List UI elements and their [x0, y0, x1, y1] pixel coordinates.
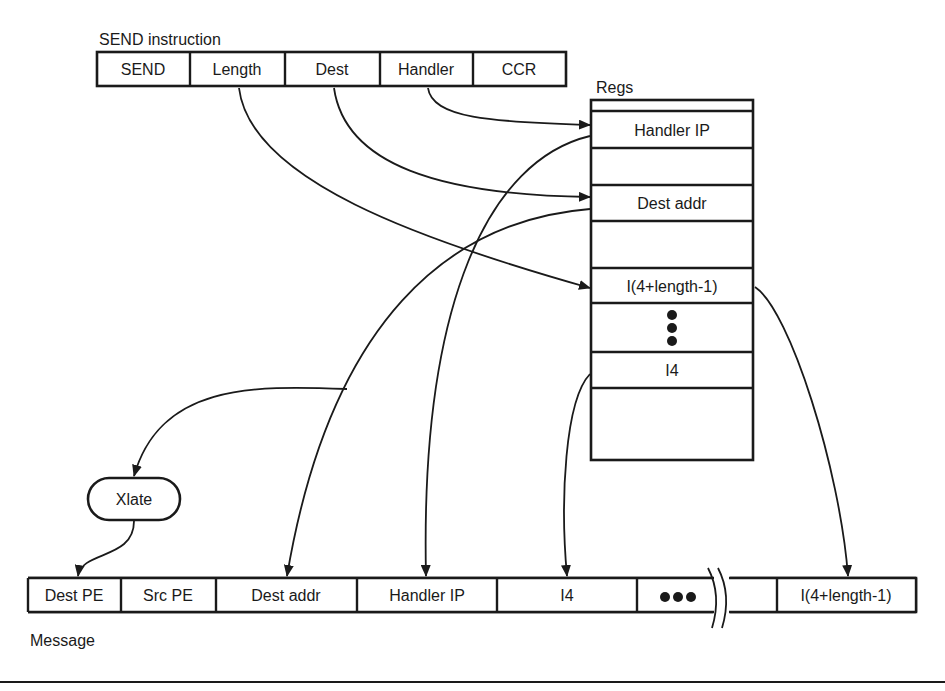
send-field-dest: Dest — [316, 61, 349, 78]
msg-field-dest-pe: Dest PE — [45, 587, 104, 604]
arrow-reg-last-to-msg — [755, 287, 848, 576]
send-message-diagram: SEND instruction SEND Length Dest Handle… — [0, 0, 945, 691]
xlate-label: Xlate — [116, 491, 153, 508]
regs-title: Regs — [596, 79, 633, 96]
send-field-opcode: SEND — [121, 61, 165, 78]
arrow-reg-dest-to-msg — [287, 209, 590, 576]
vertical-ellipsis-icon — [667, 310, 677, 346]
arrow-length-to-reg — [239, 88, 590, 288]
reg-dest-addr: Dest addr — [637, 195, 707, 212]
msg-field-dest-addr: Dest addr — [251, 587, 321, 604]
send-instruction-title: SEND instruction — [99, 31, 221, 48]
register-file: Handler IP Dest addr I(4+length-1) I4 — [591, 100, 753, 460]
message-box: Dest PE Src PE Dest addr Handler IP I4 I… — [28, 568, 916, 628]
msg-field-handler-ip: Handler IP — [389, 587, 465, 604]
arrow-reg-i4-to-msg — [564, 374, 590, 576]
reg-handler-ip: Handler IP — [634, 122, 710, 139]
arrow-handler-to-reg — [428, 88, 590, 125]
message-title: Message — [30, 632, 95, 649]
send-field-handler: Handler — [398, 61, 455, 78]
send-instruction-box: SEND Length Dest Handler CCR — [97, 52, 566, 86]
send-field-ccr: CCR — [502, 61, 537, 78]
reg-last-word: I(4+length-1) — [626, 278, 717, 295]
xlate-unit: Xlate — [88, 478, 180, 520]
reg-i4: I4 — [665, 362, 678, 379]
msg-field-i4: I4 — [560, 587, 573, 604]
msg-field-last-word: I(4+length-1) — [800, 587, 891, 604]
horizontal-ellipsis-icon — [660, 592, 696, 602]
arrow-xlate-to-dest-pe — [78, 521, 134, 576]
arrow-dest-to-xlate — [134, 388, 347, 476]
arrow-dest-to-reg — [334, 88, 590, 197]
arrow-reg-handler-to-msg — [426, 136, 590, 576]
send-field-length: Length — [213, 61, 262, 78]
msg-field-src-pe: Src PE — [143, 587, 193, 604]
